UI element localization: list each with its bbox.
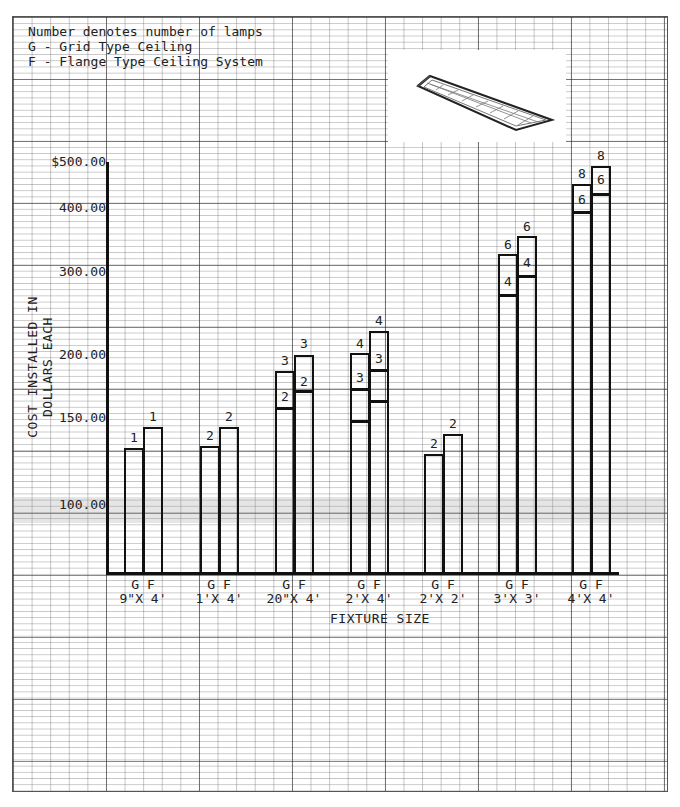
bar-1x4-grid [200,446,220,574]
size-label: 1'X 4' [196,591,243,606]
x-category-4x4: G F4'X 4' [556,578,626,606]
lamp-count-label: 6 [517,219,537,234]
y-tick-label: 100.00 [36,497,106,512]
size-label: 3'X 3' [494,591,541,606]
bar-9x4-grid [124,448,144,574]
segment-divider [369,369,389,372]
y-tick-label: 400.00 [36,200,106,215]
segment-divider [350,420,370,423]
lamp-count-label: 4 [517,255,537,270]
x-category-2x4: G F2'X 4' [334,578,404,606]
size-label: 2'X 2' [420,591,467,606]
lamp-count-label: 2 [275,389,295,404]
segment-divider [517,275,537,278]
lamp-count-label: 2 [424,436,444,451]
type-labels: G F [334,578,404,592]
size-label: 2'X 4' [346,591,393,606]
y-tick-label: $500.00 [36,154,106,169]
lamp-count-label: 3 [350,370,370,385]
lamp-count-label: 1 [124,430,144,445]
size-label: 9"X 4' [120,591,167,606]
type-labels: G F [408,578,478,592]
segment-divider [275,407,295,410]
lamp-count-label: 1 [143,409,163,424]
lamp-count-label: 2 [200,428,220,443]
size-label: 20"X 4' [267,591,322,606]
x-category-2x2: G F2'X 2' [408,578,478,606]
bar-2x2-flange [443,434,463,574]
x-category-3x3: G F3'X 3' [482,578,552,606]
lamp-count-label: 4 [369,313,389,328]
type-labels: G F [556,578,626,592]
segment-divider [572,211,592,214]
lamp-count-label: 2 [294,374,314,389]
segment-divider [498,294,518,297]
bar-4x4-grid [572,184,592,574]
x-category-20x4: G F20"X 4' [259,578,329,606]
type-labels: G F [259,578,329,592]
lamp-count-label: 6 [591,172,611,187]
bar-9x4-flange [143,427,163,574]
segment-divider [294,390,314,393]
y-axis-label: COST INSTALLED IN DOLLARS EACH [25,267,55,467]
x-category-9x4: G F9"X 4' [108,578,178,606]
bar-2x4-grid [350,353,370,574]
lamp-count-label: 8 [591,148,611,163]
lamp-count-label: 3 [275,353,295,368]
bar-3x3-grid [498,254,518,574]
lamp-count-label: 4 [350,336,370,351]
bar-2x4-flange [369,331,389,574]
bar-2x2-grid [424,454,444,574]
lamp-count-label: 3 [294,336,314,351]
lamp-count-label: 2 [443,416,463,431]
segment-divider [591,193,611,196]
lamp-count-label: 3 [369,351,389,366]
lamp-count-label: 6 [498,237,518,252]
lamp-count-label: 8 [572,166,592,181]
y-axis-line [106,162,109,574]
x-category-1x4: G F1'X 4' [184,578,254,606]
chart-area: $500.00 400.00 300.00 200.00 150.00 100.… [0,0,680,807]
size-label: 4'X 4' [568,591,615,606]
bar-1x4-flange [219,427,239,574]
bar-3x3-flange [517,236,537,574]
segment-divider [369,400,389,403]
lamp-count-label: 2 [219,409,239,424]
type-labels: G F [108,578,178,592]
segment-divider [350,388,370,391]
bar-4x4-flange [591,166,611,574]
type-labels: G F [482,578,552,592]
x-axis-label: FIXTURE SIZE [330,611,430,626]
lamp-count-label: 4 [498,274,518,289]
type-labels: G F [184,578,254,592]
lamp-count-label: 6 [572,192,592,207]
